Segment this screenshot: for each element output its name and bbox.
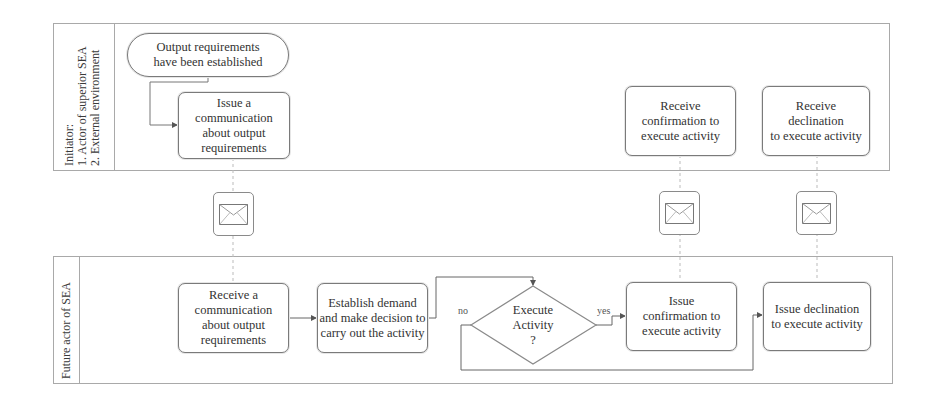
edge-label-yes: yes [597,305,610,316]
node-text: confirmation to [641,114,720,129]
node-text: carry out the activity [320,326,426,341]
node-text: ? [493,333,573,348]
envelope-icon [213,192,254,236]
node-text: Receive a [195,288,273,303]
edge-label-no: no [458,305,468,316]
node-text: execute activity [642,324,721,339]
task-receive-confirmation[interactable]: Receive confirmation to execute activity [625,86,736,156]
node-text: Output requirements [154,40,263,55]
node-text: Issue [642,294,721,309]
task-receive-communication[interactable]: Receive a communication about output req… [178,283,289,353]
node-text: Issue declination [771,302,863,317]
node-text: requirements [195,333,273,348]
node-text: to execute activity [767,129,865,144]
node-text: Execute [493,303,573,318]
swimlane-initiator-header: Initiator: 1. Actor of superior SEA 2. E… [54,24,115,170]
node-text: communication [195,111,273,126]
node-text: have been established [154,55,263,70]
node-text: requirements [195,141,273,156]
node-text: about output [195,318,273,333]
node-text: Receive [641,99,720,114]
gateway-execute-activity[interactable]: Execute Activity ? [493,303,573,348]
lane-label-line: 2. External environment [89,46,102,166]
node-text: and make decision to [320,311,426,326]
node-text: to execute activity [771,317,863,332]
swimlane-future-actor-header: Future actor of SEA [54,257,80,383]
task-issue-communication[interactable]: Issue a communication about output requi… [178,92,290,159]
node-text: communication [195,303,273,318]
node-text: about output [195,126,273,141]
node-text: Activity [493,318,573,333]
swimlane-initiator-label: Initiator: 1. Actor of superior SEA 2. E… [63,46,102,166]
node-text: Receive declination [767,99,865,129]
task-receive-declination[interactable]: Receive declination to execute activity [762,86,870,156]
node-text: Issue a [195,96,273,111]
envelope-icon [796,191,837,235]
node-text: Establish demand [320,296,426,311]
start-event-output-requirements-established[interactable]: Output requirements have been establishe… [127,33,289,77]
task-issue-confirmation[interactable]: Issue confirmation to execute activity [626,282,737,351]
swimlane-future-actor-label: Future actor of SEA [60,282,73,379]
task-establish-demand[interactable]: Establish demand and make decision to ca… [317,283,428,353]
task-issue-declination[interactable]: Issue declination to execute activity [763,282,871,351]
node-text: execute activity [641,129,720,144]
node-text: confirmation to [642,309,721,324]
envelope-icon [659,191,700,235]
